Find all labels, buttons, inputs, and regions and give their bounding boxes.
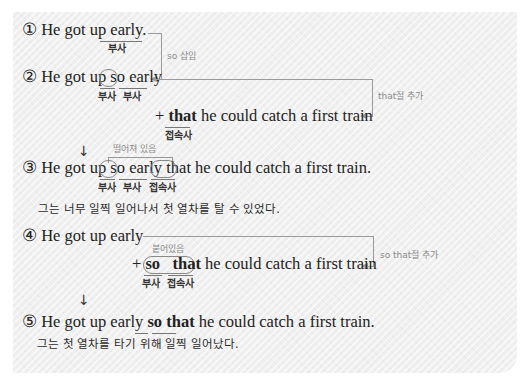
step4-that-underline — [168, 275, 193, 276]
step3-that-circle — [150, 160, 177, 178]
note-so-insert: so 삽입 — [167, 51, 196, 62]
step1-label-adverb: 부사 — [108, 43, 126, 55]
step1-prefix: He got up — [41, 20, 110, 39]
step4-word-so: so — [145, 254, 160, 273]
step2-early-underline — [119, 88, 147, 89]
step5-rest: he could catch a first train. — [195, 312, 375, 331]
step4-word-that: that — [172, 254, 200, 273]
note-separated: 떨어져 있음 — [113, 144, 156, 155]
step1-early-underline — [100, 41, 142, 42]
step3-label-so: 부사 — [98, 182, 116, 194]
step1-word-early: early. — [110, 20, 146, 39]
step2-clause-rest: he could catch a first train — [197, 106, 373, 125]
step3-so-underline — [100, 179, 115, 180]
step2-label-so: 부사 — [98, 91, 116, 103]
step2-label-early: 부사 — [123, 91, 141, 103]
step2-so-circle — [99, 69, 118, 87]
step3-sentence: ③ He got up so early that he could catch… — [22, 159, 371, 177]
step4-so-that-clause: + so that he could catch a first train — [132, 255, 377, 273]
step2-word-that: that — [168, 106, 196, 125]
step4-so-underline — [144, 275, 162, 276]
step4-text: He got up early — [41, 226, 143, 245]
step5-prefix: He got up early — [41, 312, 147, 331]
plus-sign: + — [132, 254, 145, 273]
bracket2-line-top — [155, 79, 373, 80]
step2-label-that: 접속사 — [165, 130, 192, 142]
bracket3-line-top — [143, 236, 373, 237]
step1-sentence: ① He got up early. — [22, 21, 146, 39]
step1-number: ① — [22, 20, 37, 39]
step3-that-underline — [151, 179, 175, 180]
step4-label-that: 접속사 — [167, 278, 194, 290]
step2-so-underline — [100, 88, 115, 89]
step5-so-underline — [135, 333, 148, 334]
step3-label-that: 접속사 — [149, 182, 176, 194]
step3-rest: he could catch a first train. — [191, 158, 371, 177]
step4-sentence: ④ He got up early — [22, 227, 143, 245]
step3-label-early: 부사 — [123, 182, 141, 194]
bracket-line-top — [148, 33, 161, 34]
step2-that-underline — [165, 127, 190, 128]
arrow-down-icon: ↓ — [78, 293, 90, 307]
note-so-that-clause-add: so that절 추가 — [380, 250, 438, 261]
step3-translation: 그는 너무 일찍 일어나서 첫 열차를 탈 수 있었다. — [38, 202, 280, 216]
arrow-down-icon: ↓ — [78, 144, 90, 158]
step4-label-so: 부사 — [142, 278, 160, 290]
step4-clause-rest: he could catch a first train — [201, 254, 377, 273]
step5-word-that: that — [166, 312, 194, 331]
step5-that-underline — [152, 333, 176, 334]
step3-early-underline — [119, 179, 147, 180]
note-that-clause-add: that절 추가 — [378, 91, 423, 102]
plus-sign: + — [155, 106, 168, 125]
step3-so-circle — [99, 160, 118, 178]
step2-word-early: early — [129, 67, 162, 86]
step4-number: ④ — [22, 226, 37, 245]
step2-number: ② — [22, 67, 37, 86]
step5-word-so: so — [147, 312, 162, 331]
step5-translation: 그는 첫 열차를 타기 위해 일찍 일어났다. — [37, 337, 239, 351]
step2-sentence: ② He got up so early — [22, 68, 162, 86]
step5-sentence: ⑤ He got up early so that he could catch… — [22, 313, 375, 331]
step2-that-clause: + that he could catch a first train — [155, 107, 373, 125]
step3-number: ③ — [22, 158, 37, 177]
step5-number: ⑤ — [22, 312, 37, 331]
